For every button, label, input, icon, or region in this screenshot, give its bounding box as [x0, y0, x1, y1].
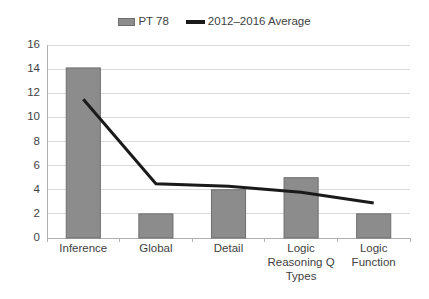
- x-axis-tick-label: Global: [120, 241, 193, 283]
- chart-container: PT 78 2012–2016 Average 1614121086420 In…: [0, 0, 429, 299]
- x-axis-tick-label: Logic Function: [337, 241, 410, 283]
- bar: [284, 178, 318, 238]
- x-axis-tick-label: Inference: [47, 241, 120, 283]
- bar: [139, 214, 173, 238]
- bar: [211, 190, 245, 238]
- line-series-average: [83, 99, 373, 203]
- x-axis-tick-labels: InferenceGlobalDetailLogic Reasoning Q T…: [47, 241, 410, 283]
- x-axis-tick-label: Detail: [192, 241, 265, 283]
- average-line: [83, 99, 373, 203]
- x-axis-tick-label: Logic Reasoning Q Types: [265, 241, 338, 283]
- bar: [66, 68, 100, 238]
- bar: [357, 214, 391, 238]
